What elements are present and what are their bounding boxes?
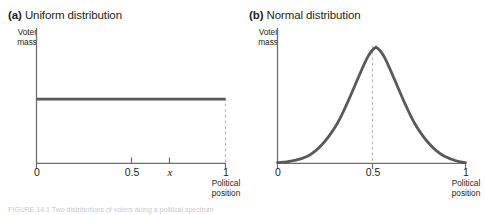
panel-b-ticklabel-0-5: 0.5 (361, 166, 385, 178)
panel-b-x-axis-caption-line2: position (436, 189, 485, 199)
panel-a-ticklabel-1: 1 (218, 166, 234, 178)
panel-b-tag: (b) (249, 9, 263, 21)
panel-b-title-text: Normal distribution (267, 9, 361, 21)
panel-a-title: (a) Uniform distribution (8, 9, 122, 21)
panel-a-ticklabel-x: x (162, 166, 178, 178)
panel-a-ticklabel-0: 0 (29, 166, 45, 178)
panel-b-x-axis-caption: Political position (436, 179, 485, 198)
panel-uniform-distribution: (a) Uniform distribution Voter mass (0, 0, 243, 215)
figure-container: (a) Uniform distribution Voter mass (0, 0, 485, 215)
panel-normal-distribution: (b) Normal distribution Voter mass (241, 0, 484, 215)
panel-b-ticklabel-1: 1 (458, 166, 474, 178)
figure-caption: FIGURE 14.1 Two distributions of voters … (8, 206, 478, 214)
panel-a-ticklabel-0-5: 0.5 (120, 166, 144, 178)
panel-b-normal-density-curve (278, 47, 466, 162)
panel-a-tag: (a) (8, 9, 22, 21)
panel-a-title-text: Uniform distribution (25, 9, 122, 21)
panel-b-title: (b) Normal distribution (249, 9, 360, 21)
panel-a-plot: Voter mass 0 0.5 x 1 (8, 26, 238, 211)
panel-b-ticklabel-0: 0 (270, 166, 286, 178)
panel-b-plot: Voter mass 0 0.5 1 Politica (249, 26, 479, 211)
